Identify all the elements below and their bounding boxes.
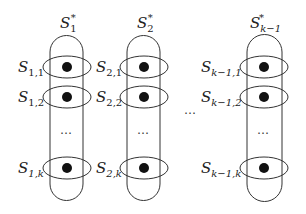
element-dot (259, 92, 269, 102)
capsule-s1-star (50, 36, 83, 201)
ellipsis-col-k-1: … (257, 123, 269, 137)
ellipsis-col1: … (60, 123, 72, 137)
column-2: S2* S2,1 S2,2 … S2,k (96, 12, 168, 201)
label-s1-k: S1,k (18, 159, 44, 179)
label-s2-k: S2,k (96, 159, 122, 179)
set-diagram: S1* S1,1 S1,2 … S1,k S2* S2,1 (0, 0, 306, 214)
label-sk-1-2: Sk−1,2 (201, 88, 242, 108)
label-sk-1-1: Sk−1,1 (201, 58, 242, 78)
element-dot (139, 92, 149, 102)
label-s2-2: S2,2 (96, 88, 122, 108)
element-dot (259, 62, 269, 72)
label-sk-1-star: Sk−1* (250, 12, 281, 34)
capsule-sk-1-star (247, 35, 282, 202)
element-dot (139, 62, 149, 72)
element-dot (62, 62, 72, 72)
label-s2-1: S2,1 (96, 58, 122, 78)
label-s1-1: S1,1 (18, 58, 44, 78)
label-sk-1-k: Sk−1,k (201, 159, 241, 179)
column-k-minus-1: Sk−1* Sk−1,1 Sk−1,2 … Sk−1,k (201, 12, 288, 202)
ellipsis-between-columns: … (184, 103, 196, 117)
capsule-s2-star (127, 36, 160, 201)
label-s1-2: S1,2 (18, 88, 44, 108)
ellipsis-col2: … (137, 123, 149, 137)
element-dot (62, 163, 72, 173)
label-s1-star: S1* (60, 12, 77, 34)
element-dot (62, 92, 72, 102)
element-dot (139, 163, 149, 173)
element-dot (259, 163, 269, 173)
column-1: S1* S1,1 S1,2 … S1,k (18, 12, 91, 201)
label-s2-star: S2* (137, 12, 154, 34)
